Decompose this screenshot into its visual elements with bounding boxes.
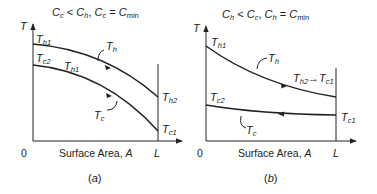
panel-b-label-th1: Th1 [211,36,226,50]
panel-b-label-th: Th [268,52,279,66]
panel-b-label-tc: Tc [246,124,257,138]
panel-b-L: L [333,147,339,159]
panel-a-label-tc2: Tc2 [36,52,51,66]
panel-a-L: L [154,147,160,159]
panel-b-label-tc1: Tc1 [341,111,356,125]
panel-b-label-th2-to-tc1: Th2→Tc1 [293,72,334,86]
panel-b-origin: 0 [197,147,203,159]
panel-a-th-curve [33,44,158,97]
panel-a-th-flow-arrow-icon [105,65,111,70]
panel-b-caption: (b) [264,172,277,184]
panel-a-y-label: T [20,20,28,32]
panel-b-y-label: T [193,22,201,34]
panel-b-label-tc2: Tc2 [210,91,225,105]
panel-a: Cc < Ch, Cc = Cmin T 0 Surface Area, A L… [20,6,182,184]
panel-b-tc-curve [206,105,336,115]
panel-a-label-th2: Th2 [162,91,178,105]
panel-a-title: Cc < Ch, Cc = Cmin [52,6,139,20]
panel-b-th-leader [257,58,267,69]
panel-a-x-label: Surface Area, A [59,147,133,159]
panel-a-tc-flow-arrow-icon [106,93,112,98]
panel-a-origin: 0 [21,147,27,159]
panel-a-label-th1-mid: Th1 [64,60,79,74]
panel-a-tc-curve [33,65,158,131]
panel-a-tc-leader [107,101,117,110]
panel-a-label-tc1: Tc1 [162,123,177,137]
panel-b-x-label: Surface Area, A [238,147,312,159]
panel-b: Ch < Cc, Ch = Cmin T 0 Surface Area, A L… [193,8,356,184]
panel-a-label-th1-top: Th1 [36,33,51,47]
panel-b-title: Ch < Cc, Ch = Cmin [222,8,309,22]
panel-a-caption: (a) [88,172,101,184]
panel-a-label-th: Th [106,40,117,54]
panel-a-label-tc: Tc [94,109,105,123]
heat-exchanger-temperature-diagram: Cc < Ch, Cc = Cmin T 0 Surface Area, A L… [0,0,377,194]
